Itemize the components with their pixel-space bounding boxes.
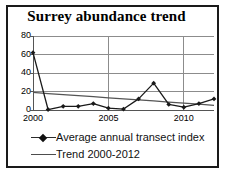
legend-key-line-marker-icon (31, 131, 56, 144)
data-point-2012 (212, 97, 217, 102)
data-point-2001 (46, 107, 51, 112)
data-point-2010 (181, 105, 186, 110)
x-tick-label-2010: 2010 (167, 113, 201, 123)
legend-item-trend-2000-2012: Trend 2000-2012 (31, 146, 216, 163)
data-point-2003 (76, 104, 81, 109)
index-line-path (33, 53, 214, 110)
series-markers (31, 50, 217, 112)
trend-line-path (33, 92, 214, 105)
data-point-2011 (197, 101, 202, 106)
data-point-2002 (61, 104, 66, 109)
series-trend-2000-2012 (33, 92, 214, 105)
legend-key-line-icon (31, 148, 56, 161)
legend-label-trend-2000-2012: Trend 2000-2012 (56, 148, 140, 161)
chart-figure: Surrey abundance trend 020406080 Average… (0, 0, 225, 173)
data-point-2004 (91, 101, 96, 106)
series-average-annual-transect-index (33, 53, 214, 110)
chart-legend: Average annual transect index Trend 2000… (31, 129, 216, 163)
x-tick-label-2005: 2005 (91, 113, 125, 123)
legend-item-average-annual-transect-index: Average annual transect index (31, 129, 216, 146)
x-tick-label-2000: 2000 (16, 113, 50, 123)
legend-label-average-annual-transect-index: Average annual transect index (56, 131, 204, 144)
